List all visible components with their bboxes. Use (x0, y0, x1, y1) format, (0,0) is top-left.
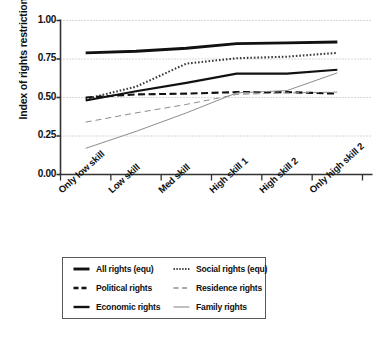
legend-item: Residence rights (173, 279, 262, 297)
thick-solid-line-icon (73, 263, 90, 275)
series-line-family-rights (86, 73, 338, 148)
series-line-all-rights-equ (86, 42, 338, 53)
thin-solid-line-icon (173, 301, 190, 313)
legend-item-label: All rights (equ) (96, 264, 153, 274)
chart-figure: Index of rights restrictions 0.000.250.5… (0, 0, 377, 338)
legend-item: All rights (equ) (73, 260, 153, 278)
legend-item-label: Family rights (196, 302, 247, 312)
dotted-line-icon (173, 263, 190, 275)
legend-item-label: Residence rights (196, 283, 262, 293)
legend-item-label: Social rights (equ) (196, 264, 267, 274)
solid-line-icon (73, 301, 90, 313)
legend-item: Economic rights (73, 298, 160, 316)
x-axis-tick-labels: Only low skillLow skillMed skillHigh ski… (0, 172, 377, 258)
legend-item: Family rights (173, 298, 247, 316)
dashed-line-icon (73, 282, 90, 294)
chart-legend: All rights (equ)Social rights (equ)Polit… (62, 257, 266, 319)
light-dashed-line-icon (173, 282, 190, 294)
legend-item-label: Political rights (96, 283, 152, 293)
legend-item-label: Economic rights (96, 302, 160, 312)
data-series-layer (86, 42, 338, 148)
legend-item: Social rights (equ) (173, 260, 267, 278)
series-line-residence-rights (86, 92, 338, 122)
legend-item: Political rights (73, 279, 152, 297)
